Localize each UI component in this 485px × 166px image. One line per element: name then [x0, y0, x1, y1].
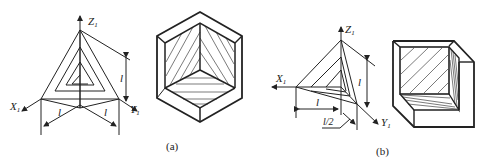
- caption-a: (a): [166, 140, 179, 153]
- dim-vertical-label: l: [358, 76, 361, 88]
- y-axis-label: Y1: [130, 103, 140, 117]
- x-axis-label: X1: [9, 100, 20, 114]
- dim-right-label: l: [104, 106, 107, 118]
- y-axis-label: Y1: [381, 116, 391, 130]
- figure-b-labels: Z1 X1 Y1 l l/2 l: [275, 23, 391, 130]
- caption-b: (b): [376, 145, 389, 158]
- z-axis-label: Z1: [88, 15, 98, 29]
- dim-depth-label: l/2: [323, 116, 334, 127]
- figure-a-labels: Z1 X1 Y1 l l l: [9, 15, 140, 118]
- dim-left-label: l: [58, 106, 61, 118]
- figure-a-isometric-cube: [157, 12, 242, 122]
- dim-vertical-label: l: [120, 72, 123, 84]
- figure-b-axes-diagram: [272, 27, 378, 130]
- axonometric-figure: Z1 X1 Y1 l l l: [0, 0, 485, 166]
- z-axis-label: Z1: [345, 23, 355, 37]
- figure-b-oblique-cube: [393, 41, 474, 127]
- dim-horizontal-label: l: [316, 96, 319, 108]
- x-axis: [22, 99, 41, 111]
- x-axis-label: X1: [275, 72, 286, 86]
